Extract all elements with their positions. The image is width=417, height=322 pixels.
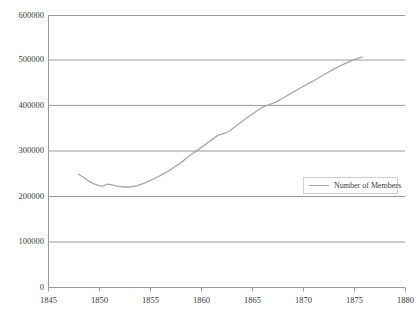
x-tick-label-1850: 1850 [84,295,115,305]
x-tick-label-1865: 1865 [237,295,268,305]
y-tick-label-600000: 600000 [4,10,44,20]
x-tick-label-1860: 1860 [186,295,217,305]
gridlines [48,16,405,243]
line-chart: 600000 500000 400000 300000 200000 10000… [0,0,417,322]
series-line-number-of-members [79,57,363,187]
y-tick-label-100000: 100000 [4,236,44,246]
x-tick-label-1845: 1845 [33,295,64,305]
chart-legend: Number of Members [303,177,398,194]
legend-label-number-of-members: Number of Members [334,181,401,190]
chart-plot-area [0,0,417,322]
x-tick-label-1870: 1870 [288,295,319,305]
y-tick-label-400000: 400000 [4,100,44,110]
y-tick-label-500000: 500000 [4,54,44,64]
x-tick-label-1875: 1875 [339,295,370,305]
y-tick-label-0: 0 [4,282,44,292]
y-tick-label-200000: 200000 [4,191,44,201]
legend-line-swatch-icon [309,185,329,186]
x-axis-ticks [49,288,406,292]
y-tick-label-300000: 300000 [4,145,44,155]
x-tick-label-1855: 1855 [135,295,166,305]
x-tick-label-1880: 1880 [390,295,417,305]
